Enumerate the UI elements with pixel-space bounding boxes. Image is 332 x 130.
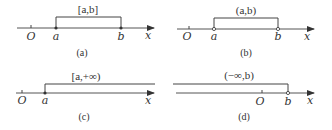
caption: (a)	[76, 47, 87, 59]
interval-label: (a,b)	[236, 4, 257, 17]
interval-bracket	[56, 17, 121, 28]
caption: (c)	[78, 111, 89, 123]
axis-label: x	[145, 94, 152, 107]
point-a-label: a	[42, 94, 49, 107]
panel-d: (−∞,b) O b x (d)	[173, 69, 314, 123]
caption: (d)	[238, 111, 250, 123]
interval-label: [a,+∞)	[71, 70, 100, 83]
panel-c: [a,+∞) O a x (c)	[16, 70, 155, 123]
interval-diagram: [a,b] O a b x (a) (a,b) O a b x (b) [a,+…	[0, 0, 332, 130]
caption: (b)	[240, 47, 252, 59]
axis-label: x	[304, 30, 311, 43]
axis-label: x	[307, 94, 314, 107]
point-b-label: b	[274, 30, 281, 43]
origin-label: O	[26, 30, 35, 43]
origin-label: O	[182, 30, 191, 43]
interval-bracket	[173, 84, 288, 93]
interval-label: (−∞,b)	[224, 69, 254, 82]
origin-label: O	[17, 94, 26, 107]
origin-label: O	[255, 95, 264, 108]
panel-a: [a,b] O a b x (a)	[17, 3, 154, 59]
interval-bracket	[45, 84, 155, 93]
point-b-label: b	[117, 30, 124, 43]
point-a-label: a	[211, 30, 218, 43]
interval-bracket	[214, 18, 278, 29]
point-a-label: a	[53, 30, 60, 43]
interval-label: [a,b]	[78, 3, 98, 15]
point-b-label: b	[284, 95, 291, 108]
panel-b: (a,b) O a b x (b)	[177, 4, 314, 59]
axis-label: x	[145, 29, 152, 42]
